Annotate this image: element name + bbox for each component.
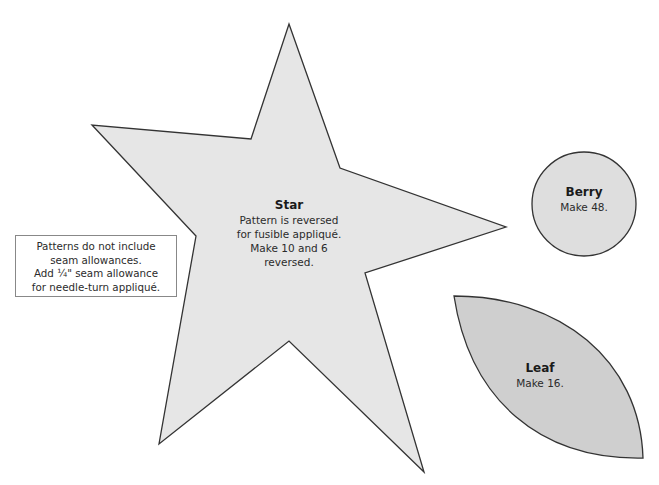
berry-title: Berry [544,185,624,200]
star-instruction: for fusible appliqué. [224,227,354,241]
note-line: seam allowances. [16,254,176,268]
leaf-title: Leaf [500,361,580,376]
berry-instruction: Make 48. [544,200,624,214]
note-line: for needle-turn appliqué. [16,281,176,295]
seam-allowance-note: Patterns do not include seam allowances.… [15,235,177,297]
leaf-instruction: Make 16. [500,376,580,390]
star-title: Star [224,198,354,213]
star-instruction: Pattern is reversed [224,213,354,227]
note-line: Add ¼" seam allowance [16,267,176,281]
leaf-label: Leaf Make 16. [500,361,580,390]
berry-label: Berry Make 48. [544,185,624,214]
note-line: Patterns do not include [16,240,176,254]
star-label: Star Pattern is reversed for fusible app… [224,198,354,269]
star-instruction: Make 10 and 6 reversed. [224,241,354,269]
